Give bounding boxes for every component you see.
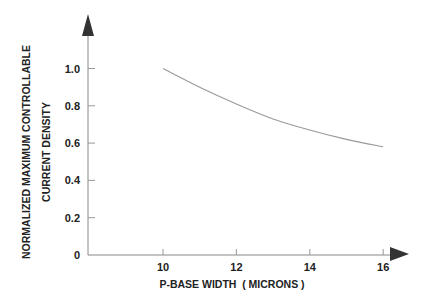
y-axis-title-line2: CURRENT DENSITY [40,102,52,202]
data-curve [163,69,383,147]
y-tick-label: 0.6 [65,137,80,149]
y-axis-title-line1: NORMALIZED MAXIMUM CONTROLLABLE [20,45,32,259]
y-axis-arrow-icon [82,14,94,36]
y-tick-label: 0.2 [65,212,80,224]
x-tick-label: 12 [230,261,242,273]
y-tick-label: 0.8 [65,100,80,112]
x-tick-label: 16 [377,261,389,273]
y-tick-label: 1.0 [65,63,80,75]
x-axis-arrow-icon [390,247,409,261]
x-ticks: 10121416 [157,249,389,273]
y-ticks: 00.20.40.60.81.0 [65,63,95,262]
y-tick-label: 0 [74,249,80,261]
x-axis-title: P-BASE WIDTH ( MICRONS ) [159,278,304,290]
y-tick-label: 0.4 [65,174,81,186]
x-tick-label: 10 [157,261,169,273]
x-tick-label: 14 [304,261,317,273]
axes [82,14,409,261]
chart: 00.20.40.60.81.0 10121416 NORMALIZED MAX… [0,0,424,307]
